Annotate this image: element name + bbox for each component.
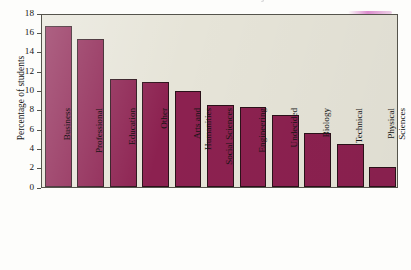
x-axis-label: Engineering xyxy=(257,108,268,192)
y-tick-label: 14 xyxy=(25,46,34,56)
y-tick-label: 12 xyxy=(25,66,34,76)
x-axis-label: Social Sciences xyxy=(224,108,235,192)
chart-figure: Distribution of intended majors Percenta… xyxy=(0,0,411,270)
y-tick-label: 10 xyxy=(25,85,34,95)
x-axis-label: Biology xyxy=(321,108,332,192)
chart-title: Distribution of intended majors xyxy=(0,0,411,2)
x-axis-label: Arts and Humanities xyxy=(192,108,213,192)
y-tick-label: 18 xyxy=(25,8,34,18)
x-axis-label: Education xyxy=(127,108,138,192)
x-axis-label: Technical xyxy=(354,108,365,192)
y-tick-label: 8 xyxy=(29,104,34,114)
y-tick-label: 16 xyxy=(25,27,34,37)
x-axis-label: Physical Sciences xyxy=(386,108,407,192)
x-axis-label: Professional xyxy=(94,108,105,192)
y-tick-label: 4 xyxy=(29,143,34,153)
x-axis-label: Business xyxy=(62,108,73,192)
y-axis-title: Percentage of students xyxy=(16,18,26,178)
y-tick-label: 2 xyxy=(29,162,34,172)
y-tick-label: 6 xyxy=(29,124,34,134)
x-axis-label: Undecided xyxy=(289,108,300,192)
x-axis-label: Other xyxy=(159,108,170,192)
y-tick-label: 0 xyxy=(29,182,34,192)
